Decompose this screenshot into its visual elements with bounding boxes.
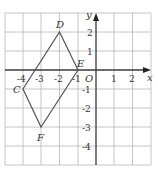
grid-lines <box>5 13 151 165</box>
x-tick-label: 2 <box>129 74 135 84</box>
y-tick-label: 1 <box>87 47 93 57</box>
x-tick-label: -1 <box>72 74 81 84</box>
y-tick-label: -2 <box>82 104 91 114</box>
coordinate-grid: x y O -4 -3 -2 -1 1 2 2 1 -1 -2 -3 -4 D … <box>0 0 158 174</box>
x-tick-label: -3 <box>35 74 44 84</box>
y-tick-label: -4 <box>82 142 91 152</box>
vertex-label-d: D <box>55 19 64 30</box>
x-axis-label: x <box>147 72 153 83</box>
x-tick-label: -2 <box>54 74 63 84</box>
y-tick-label: -1 <box>82 85 91 95</box>
y-tick-label: 2 <box>87 28 93 38</box>
vertex-label-c: C <box>13 84 21 95</box>
y-axis-label: y <box>85 9 92 20</box>
origin-label: O <box>85 73 93 84</box>
vertex-label-f: F <box>36 132 45 143</box>
quadrilateral-cdef <box>23 32 78 127</box>
x-tick-label: 1 <box>111 74 117 84</box>
vertex-label-e: E <box>76 58 85 69</box>
x-tick-label: -4 <box>17 74 26 84</box>
y-tick-label: -3 <box>82 123 91 133</box>
